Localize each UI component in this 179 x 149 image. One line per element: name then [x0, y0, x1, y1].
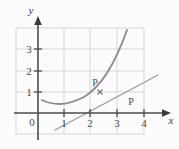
- x-axis-label: x: [168, 114, 174, 126]
- x-tick-label-2: 2: [87, 117, 93, 129]
- y-axis-label: y: [28, 4, 34, 16]
- coordinate-plot: 1 2 3 0 1 2 3 4 y x P P: [0, 0, 179, 149]
- y-axis-tick-labels: 1 2 3: [26, 43, 32, 98]
- y-tick-label-3: 3: [26, 43, 32, 55]
- y-tick-label-1: 1: [26, 86, 32, 98]
- x-tick-label-1: 1: [61, 117, 67, 129]
- x-tick-label-4: 4: [141, 117, 147, 129]
- y-tick-label-2: 2: [26, 65, 32, 77]
- secondary-point-label: P: [128, 96, 134, 107]
- x-tick-label-3: 3: [114, 117, 120, 129]
- graph-figure: 1 2 3 0 1 2 3 4 y x P P: [0, 0, 179, 149]
- tangent-point-label: P: [92, 77, 98, 88]
- origin-label: 0: [29, 116, 35, 128]
